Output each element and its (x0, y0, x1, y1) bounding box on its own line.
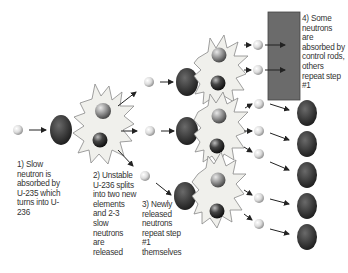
released-neutron (254, 219, 264, 229)
label-line: U-236 splits (93, 181, 151, 191)
label-line: into two new (93, 190, 151, 200)
fission-burst-1 (73, 84, 134, 164)
arrow (270, 162, 289, 170)
fission-fragment-light (212, 109, 227, 124)
label-line: 236 (17, 208, 77, 218)
label-line: released (142, 210, 200, 220)
control-rod (268, 12, 300, 100)
arrow (270, 229, 289, 234)
released-neutron (253, 65, 263, 75)
u235-nucleus (297, 100, 317, 126)
released-neutron (254, 99, 264, 109)
label-line: repeat step (142, 229, 200, 239)
released-neutron (145, 126, 155, 136)
arrow (244, 214, 252, 220)
label-line: turns into U- (17, 198, 77, 208)
label-line: 1) Slow (17, 160, 77, 170)
fission-fragment-dark (210, 139, 225, 154)
arrow (270, 104, 289, 110)
label-line: #1 (142, 238, 200, 248)
label-line: absorbed by (17, 179, 77, 189)
fission-fragment-light (211, 173, 226, 188)
fission-fragment-light (95, 103, 111, 119)
label-line: 2) Unstable (93, 171, 151, 181)
step-3-label: 3) Newly released neutrons repeat step #… (142, 200, 200, 258)
step-4-label: 4) Some neutrons are absorbed by control… (302, 14, 348, 91)
arrow (270, 133, 289, 140)
arrow (245, 104, 252, 108)
u235-nucleus (297, 162, 317, 188)
label-line: are (302, 33, 348, 43)
u235-nucleus (297, 224, 317, 250)
label-line: themselves (142, 248, 200, 258)
label-line: neutrons (302, 24, 348, 34)
stage-1 (13, 115, 72, 145)
u235-nucleus (297, 131, 317, 157)
released-neutron (144, 77, 154, 87)
fission-fragment-dark (210, 204, 225, 219)
released-neutron (253, 40, 263, 50)
label-line: U-235 which (17, 189, 77, 199)
label-line: #1 (302, 81, 348, 91)
arrow (244, 147, 252, 152)
arrow (156, 183, 171, 195)
label-line: repeat step (302, 72, 348, 82)
fission-fragment-dark (93, 133, 108, 148)
step-1-label: 1) Slow neutron is absorbed by U-235 whi… (17, 160, 77, 218)
released-neutron (254, 193, 264, 203)
fission-fragment-dark (211, 76, 226, 91)
label-line: neutrons (142, 219, 200, 229)
label-line: absorbed by (302, 43, 348, 53)
label-line: 4) Some (302, 14, 348, 24)
label-line: 3) Newly (142, 200, 200, 210)
arrow (244, 190, 252, 195)
arrow (270, 199, 289, 204)
fission-burst-2c (192, 152, 246, 228)
u235-nucleus (297, 193, 317, 219)
label-line: control rods, (302, 52, 348, 62)
label-line: others (302, 62, 348, 72)
released-neutron (254, 149, 264, 159)
label-line: neutron is (17, 170, 77, 180)
u235-nucleus (176, 68, 198, 96)
incoming-neutron (13, 125, 23, 135)
u235-nucleus (50, 115, 72, 145)
fission-fragment-light (212, 48, 227, 63)
arrow (118, 150, 133, 166)
released-neutron (254, 126, 264, 136)
